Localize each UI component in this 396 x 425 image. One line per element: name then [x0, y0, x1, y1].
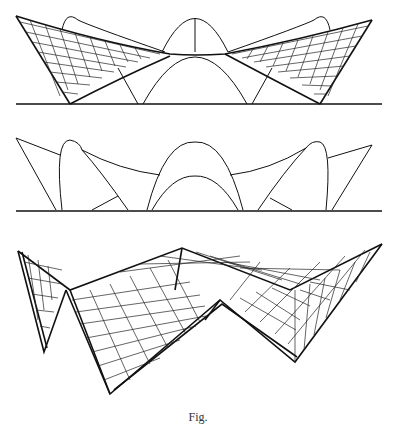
middle-panel-outline: [16, 138, 382, 211]
bottom-panel-wireframe: [18, 244, 382, 394]
figure-caption: Fig.: [0, 410, 396, 425]
top-panel-elevation: [16, 16, 382, 104]
